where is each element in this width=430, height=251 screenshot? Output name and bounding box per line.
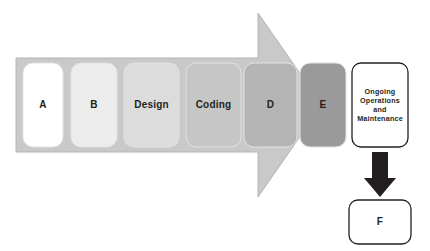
process-diagram: A B Design Coding D E Ongoing Operations…	[0, 0, 430, 251]
stage-box-b[interactable]	[71, 63, 117, 147]
stage-box-a[interactable]	[23, 63, 63, 147]
diagram-canvas	[0, 0, 430, 251]
down-arrow	[364, 152, 396, 197]
final-box-f[interactable]	[349, 200, 411, 244]
stage-box-e[interactable]	[300, 63, 346, 147]
stage-box-coding[interactable]	[186, 63, 241, 147]
stage-box-design[interactable]	[124, 63, 179, 147]
ongoing-operations-box[interactable]	[352, 63, 408, 147]
stage-box-d[interactable]	[244, 63, 297, 147]
